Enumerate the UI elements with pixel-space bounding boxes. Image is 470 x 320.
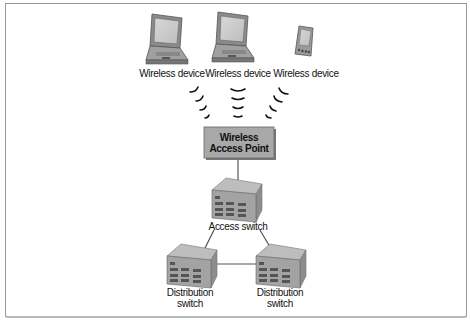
laptop-icon [212, 12, 254, 62]
switch-icon [167, 244, 217, 288]
access-point-label: Wireless Access Point [204, 127, 274, 158]
label-line: Distribution [148, 287, 232, 298]
label-line: switch [238, 298, 322, 309]
switch-icon [256, 244, 306, 288]
label-line: switch [148, 298, 232, 309]
network-diagram [0, 0, 470, 320]
label-line: Distribution [238, 287, 322, 298]
wireless-signal-icon [190, 87, 288, 118]
laptop-icon [146, 14, 188, 64]
device-label: Wireless device [264, 68, 348, 79]
distribution-switch-label: Distribution switch [148, 287, 232, 309]
pda-icon [295, 26, 313, 56]
distribution-switch-label: Distribution switch [238, 287, 322, 309]
switch-icon [212, 178, 262, 222]
access-switch-label: Access switch [196, 221, 280, 232]
